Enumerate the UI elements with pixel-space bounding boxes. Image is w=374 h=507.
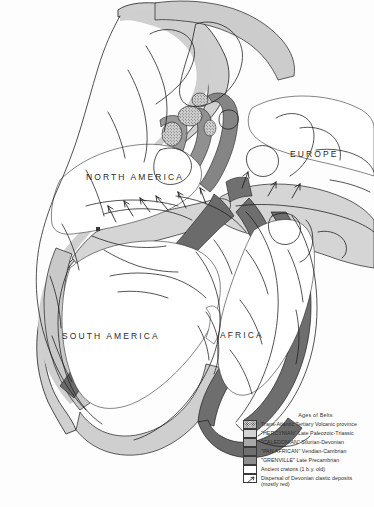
swatch-pan-african	[243, 447, 257, 456]
geologic-map-figure: NORTH AMERICA SOUTH AMERICA AFRICA EUROP…	[0, 0, 374, 507]
swatch-caledonian	[243, 438, 257, 447]
swatch-dispersal-arrow	[243, 474, 257, 483]
legend-item-tertiary-volcanic: Trans-Atlantic Tertiary Volcanic provinc…	[243, 420, 374, 429]
legend-item-dispersal: Dispersal of Devonian clastic deposits (…	[243, 474, 374, 487]
legend-label-caledonian: "CALEDONIAN" Silurian-Devonian	[261, 438, 344, 447]
legend-label-dispersal: Dispersal of Devonian clastic deposits (…	[261, 474, 352, 487]
legend-title: Ages of Belts	[257, 412, 374, 418]
legend-label-hercynian: "HERCYNIAN" Late Paleozoic-Triassic	[261, 429, 354, 438]
legend-label-pan-african: "PAN AFRICAN" Vendian-Cambrian	[261, 447, 347, 456]
swatch-grenville	[243, 456, 257, 465]
legend-item-ancient-craton: Ancient cratons (1 b.y. old)	[243, 465, 374, 474]
map-legend: Ages of Belts Trans-Atlantic Tertiary Vo…	[243, 412, 374, 487]
legend-item-caledonian: "CALEDONIAN" Silurian-Devonian	[243, 438, 374, 447]
swatch-tertiary-volcanic	[243, 420, 257, 429]
legend-item-grenville: "GRENVILLE" Late Precambrian	[243, 456, 374, 465]
arrow-icon	[245, 476, 257, 484]
legend-item-hercynian: "HERCYNIAN" Late Paleozoic-Triassic	[243, 429, 374, 438]
swatch-ancient-craton	[243, 465, 257, 474]
swatch-hercynian	[243, 429, 257, 438]
legend-item-pan-african: "PAN AFRICAN" Vendian-Cambrian	[243, 447, 374, 456]
legend-label-tertiary-volcanic: Trans-Atlantic Tertiary Volcanic provinc…	[261, 420, 357, 429]
legend-label-grenville: "GRENVILLE" Late Precambrian	[261, 456, 339, 465]
legend-label-ancient-craton: Ancient cratons (1 b.y. old)	[261, 465, 325, 474]
